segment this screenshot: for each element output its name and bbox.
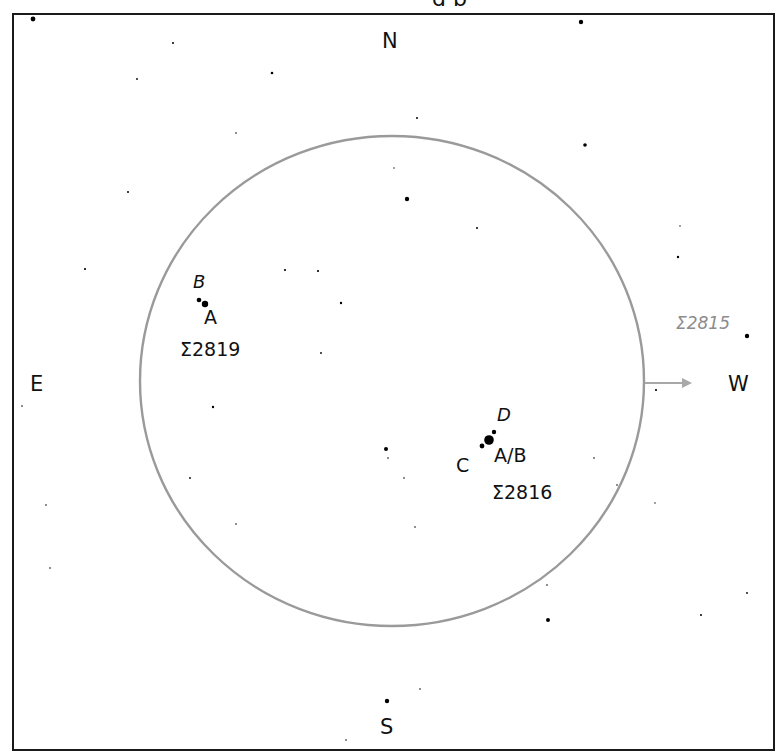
field-star (476, 227, 478, 229)
double-star-component (492, 430, 496, 434)
field-star (546, 618, 550, 622)
field-star (679, 225, 680, 226)
field-star (49, 567, 51, 569)
south-label: S (380, 717, 393, 738)
field-of-view-circle (140, 136, 644, 626)
star-field (0, 0, 779, 752)
double-star-component (484, 435, 494, 445)
field-star (700, 614, 702, 616)
field-star (21, 405, 23, 407)
field-star (384, 447, 388, 451)
field-star (616, 484, 618, 486)
field-star (655, 389, 657, 391)
field-star (419, 688, 421, 690)
field-star (340, 302, 342, 304)
west-label: W (728, 374, 749, 395)
double-star-component (197, 298, 202, 303)
field-star (127, 191, 129, 193)
field-star (403, 477, 405, 479)
field-star (746, 592, 748, 594)
field-star (677, 256, 679, 258)
field-star (31, 17, 36, 22)
s2819-component-b-label: B (193, 273, 205, 291)
field-star (189, 477, 191, 479)
s2816-component-d-label: D (497, 406, 511, 424)
field-star (345, 739, 347, 741)
s2816-designation: Σ2816 (492, 483, 552, 502)
field-star (654, 502, 655, 503)
field-star (136, 78, 138, 80)
field-star (385, 699, 389, 703)
field-star (212, 406, 214, 408)
field-star (387, 457, 389, 459)
field-star (284, 269, 286, 271)
field-star (546, 584, 548, 586)
east-label: E (30, 374, 43, 395)
field-stars-group (21, 17, 748, 741)
s2815-designation: Σ2815 (676, 315, 730, 332)
field-star (405, 197, 409, 201)
s2816-component-ab-label: A/B (494, 446, 526, 465)
field-star (172, 42, 174, 44)
field-star (45, 504, 47, 506)
field-star (235, 523, 237, 525)
field-star (235, 132, 237, 134)
s2819-component-a-label: A (204, 308, 217, 327)
s2819-designation: Σ2819 (180, 340, 240, 359)
double-star-component (480, 444, 485, 449)
field-star (416, 117, 418, 119)
north-label: N (382, 31, 398, 52)
s2816-component-c-label: C (456, 456, 469, 475)
field-star (593, 457, 595, 459)
field-star (393, 167, 394, 168)
field-star (320, 352, 322, 354)
field-star (414, 526, 416, 528)
field-star (579, 20, 583, 24)
field-star (583, 143, 587, 147)
field-star (84, 268, 86, 270)
double-star-components (197, 298, 750, 449)
double-star-component (745, 334, 749, 338)
field-star (271, 72, 274, 75)
field-star (317, 270, 319, 272)
